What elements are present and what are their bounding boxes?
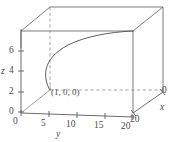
y-tick-label-0: 0	[13, 117, 18, 127]
space-curve-path	[46, 31, 133, 90]
x-axis-label: x	[160, 103, 164, 113]
z-tick-label-2: 2	[9, 87, 14, 97]
y-tick-label-15: 15	[94, 121, 104, 131]
start-point-label: (1, 0, 0)	[51, 88, 80, 97]
box-edge-back-top-left	[21, 7, 50, 31]
plot-canvas	[0, 0, 174, 142]
x-axis-line	[133, 92, 163, 113]
box-edge-top-right-slant	[133, 7, 163, 31]
x-tick-label-0: 0	[162, 86, 167, 96]
figure-3d-space-curve: 0 2 4 6 z 0 5 10 15 20 y 20 0 x (1, 0, 0…	[0, 0, 174, 142]
bounding-box-hidden-edges	[50, 7, 163, 90]
y-axis-label: y	[56, 130, 60, 140]
axes-group	[21, 29, 163, 117]
bounding-box	[21, 7, 163, 113]
z-tick-label-6: 6	[9, 46, 14, 56]
origin-leader-line	[21, 90, 50, 113]
z-tick-label-4: 4	[9, 66, 14, 76]
x-tick-label-20: 20	[130, 115, 140, 125]
y-tick-label-5: 5	[41, 119, 46, 129]
y-tick-label-10: 10	[66, 120, 76, 130]
origin-leader	[21, 90, 50, 113]
z-axis-label: z	[1, 67, 5, 77]
